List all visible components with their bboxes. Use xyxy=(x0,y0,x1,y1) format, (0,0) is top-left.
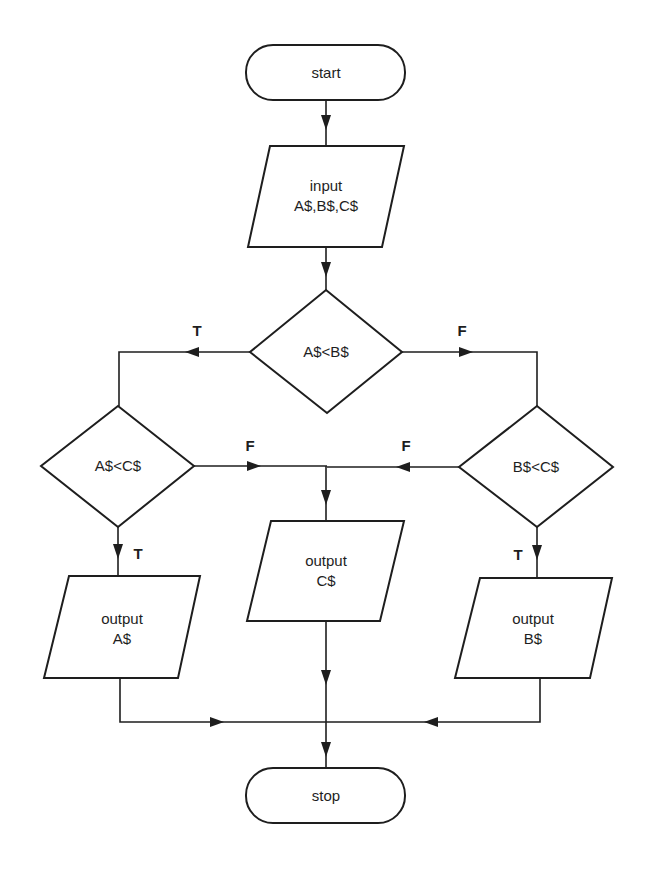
node-cond-bc-label: B$<C$ xyxy=(513,458,560,475)
node-cond-ac-label: A$<C$ xyxy=(95,457,142,474)
node-out-c: output C$ xyxy=(247,521,404,621)
arrow-head xyxy=(247,461,261,471)
label-ac-true: T xyxy=(133,545,142,562)
arrow-head xyxy=(321,115,331,130)
node-stop: stop xyxy=(246,768,405,823)
arrow-head xyxy=(321,670,331,685)
node-stop-label: stop xyxy=(312,787,340,804)
label-ab-false: F xyxy=(457,322,466,339)
node-start-label: start xyxy=(311,64,341,81)
arrow-head xyxy=(459,347,473,357)
label-bc-false: F xyxy=(401,437,410,454)
node-out-c-label-1: output xyxy=(305,552,348,569)
edge-cond-ab-false xyxy=(402,352,537,406)
node-cond-ab: A$<B$ xyxy=(250,290,402,413)
node-cond-bc: B$<C$ xyxy=(459,406,613,527)
node-cond-ac: A$<C$ xyxy=(41,406,194,527)
arrow-head xyxy=(185,347,199,357)
arrow-head xyxy=(321,262,331,277)
arrow-head xyxy=(113,544,123,559)
node-input: input A$,B$,C$ xyxy=(248,146,404,247)
node-start: start xyxy=(246,45,405,100)
arrow-head xyxy=(321,490,331,505)
arrow-head xyxy=(321,742,331,757)
flowchart: start input A$,B$,C$ A$<B$ A$<C$ B$<C$ o… xyxy=(0,0,646,870)
label-ac-false: F xyxy=(245,437,254,454)
arrow-head xyxy=(396,462,410,472)
node-cond-ab-label: A$<B$ xyxy=(303,343,349,360)
arrow-head xyxy=(532,545,542,560)
node-out-b: output B$ xyxy=(455,578,612,678)
edge-out-b-stop xyxy=(326,678,540,722)
arrow-head xyxy=(424,717,438,727)
edge-out-a-stop xyxy=(120,678,326,722)
node-input-label-1: input xyxy=(310,177,343,194)
node-out-b-label-1: output xyxy=(512,610,555,627)
node-out-a-label-1: output xyxy=(101,610,144,627)
edge-cond-ab-true xyxy=(119,352,250,406)
node-out-b-label-2: B$ xyxy=(524,630,543,647)
node-out-a: output A$ xyxy=(44,576,200,678)
arrow-head xyxy=(210,717,224,727)
label-bc-true: T xyxy=(513,546,522,563)
node-input-label-2: A$,B$,C$ xyxy=(294,197,359,214)
node-out-a-label-2: A$ xyxy=(113,630,132,647)
node-out-c-label-2: C$ xyxy=(316,572,336,589)
label-ab-true: T xyxy=(192,322,201,339)
